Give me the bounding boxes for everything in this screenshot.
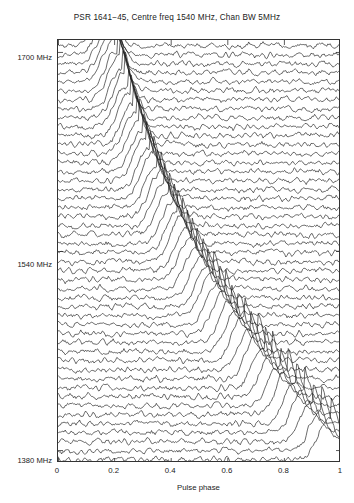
pulse-trace <box>58 228 340 292</box>
pulse-trace <box>58 294 340 356</box>
pulse-trace <box>58 52 340 121</box>
pulse-trace <box>58 40 340 68</box>
pulse-trace <box>58 239 340 302</box>
y-tick-label-1380: 1380 MHz <box>0 456 52 465</box>
x-tick-label-0.8: 0.8 <box>278 466 289 475</box>
trace-stack <box>58 40 340 462</box>
x-tick-label-0.6: 0.6 <box>221 466 232 475</box>
x-tick-label-0: 0 <box>55 466 59 475</box>
pulse-trace <box>58 313 340 382</box>
x-tick-label-0.2: 0.2 <box>108 466 119 475</box>
pulse-trace <box>58 96 340 157</box>
pulse-trace <box>58 311 340 373</box>
pulse-trace <box>58 40 340 93</box>
pulse-trace <box>58 190 340 257</box>
pulse-trace <box>58 136 340 202</box>
pulse-trace <box>58 122 340 185</box>
pulse-trace <box>58 86 340 149</box>
chart-title: PSR 1641−45, Centre freq 1540 MHz, Chan … <box>0 13 354 22</box>
pulse-trace <box>58 69 340 130</box>
y-tick-label-1540: 1540 MHz <box>0 260 52 269</box>
pulsar-dispersion-figure: PSR 1641−45, Centre freq 1540 MHz, Chan … <box>0 0 354 503</box>
y-tick-label-1700: 1700 MHz <box>0 53 52 62</box>
pulse-trace <box>58 210 340 274</box>
pulse-trace <box>58 367 340 435</box>
pulse-trace <box>58 150 340 211</box>
x-tick-label-1: 1 <box>338 466 342 475</box>
x-tick-label-0.4: 0.4 <box>165 466 176 475</box>
pulse-trace <box>58 163 340 229</box>
x-axis-title: Pulse phase <box>57 483 340 492</box>
plot-area <box>57 39 340 462</box>
